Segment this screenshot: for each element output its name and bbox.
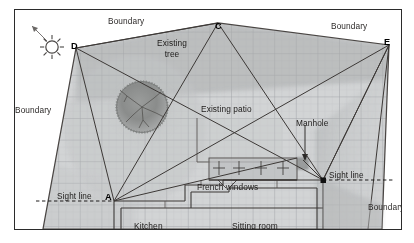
- vertex-markers: [321, 178, 327, 184]
- existing-tree: [111, 78, 179, 142]
- vertex-label-D: D: [71, 41, 78, 51]
- vertex-label-E: E: [384, 37, 390, 47]
- sight-line-label-right: Sight line: [329, 171, 364, 180]
- vertex-label-C: C: [215, 21, 222, 31]
- existing-tree-label: Existing tree: [147, 38, 197, 60]
- sight-line-label-left: Sight line: [57, 192, 92, 201]
- boundary-label-top-right: Boundary: [331, 21, 367, 31]
- room-label-kitchen: Kitchen: [134, 221, 163, 230]
- vertex-label-A: A: [105, 192, 112, 202]
- sun-icon: [27, 22, 73, 66]
- existing-tree-label-line2: tree: [147, 49, 197, 60]
- room-label-sitting-room: Sitting room: [232, 221, 278, 230]
- existing-tree-label-line1: Existing: [147, 38, 197, 49]
- diagram-canvas: Boundary Boundary Boundary Boundary Exis…: [0, 0, 414, 243]
- boundary-label-top-left: Boundary: [108, 16, 144, 26]
- diagram-frame: Boundary Boundary Boundary Boundary Exis…: [14, 9, 402, 230]
- boundary-label-left: Boundary: [15, 105, 51, 115]
- existing-patio: [197, 118, 283, 162]
- existing-patio-label: Existing patio: [201, 104, 252, 114]
- manhole-label: Manhole: [296, 118, 329, 128]
- boundary-label-bottom-right: Boundary: [368, 202, 402, 212]
- french-windows-label: French windows: [197, 182, 258, 192]
